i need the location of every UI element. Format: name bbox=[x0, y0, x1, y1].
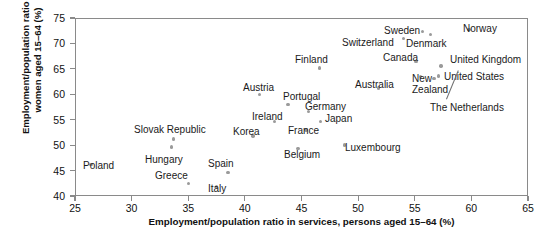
data-point bbox=[318, 66, 321, 69]
data-point-label: The Netherlands bbox=[430, 103, 504, 114]
x-tick-label: 45 bbox=[287, 203, 317, 213]
scatter-chart-figure: Employment/population ratio for women ag… bbox=[0, 0, 554, 242]
data-point-label: Luxembourg bbox=[345, 143, 401, 154]
data-point-label: Denmark bbox=[406, 39, 447, 50]
y-tick-label: 75 bbox=[37, 13, 65, 23]
data-point-label: Switzerland bbox=[342, 38, 394, 49]
y-tick-mark bbox=[70, 145, 75, 146]
data-point bbox=[170, 145, 173, 148]
y-tick-mark bbox=[70, 94, 75, 95]
data-point-label: Ireland bbox=[252, 112, 283, 123]
x-tick-mark bbox=[244, 196, 245, 201]
data-point bbox=[187, 182, 190, 185]
x-tick-label: 30 bbox=[117, 203, 147, 213]
data-point-label: Korea bbox=[233, 127, 260, 138]
y-tick-mark bbox=[70, 17, 75, 18]
data-point-label: Spain bbox=[208, 159, 234, 170]
data-point-label: Canada bbox=[383, 53, 418, 64]
data-point-label: United Kingdom bbox=[450, 55, 521, 66]
x-tick-label: 40 bbox=[230, 203, 260, 213]
data-point-label: New Zealand bbox=[412, 74, 448, 95]
data-point-label: Germany bbox=[305, 102, 346, 113]
x-tick-label: 65 bbox=[513, 203, 543, 213]
data-point-label: Australia bbox=[355, 80, 394, 91]
data-point bbox=[286, 103, 289, 106]
x-tick-mark bbox=[301, 196, 302, 201]
y-tick-label: 60 bbox=[37, 89, 65, 99]
x-tick-mark bbox=[358, 196, 359, 201]
x-tick-mark bbox=[471, 196, 472, 201]
data-point bbox=[432, 77, 435, 80]
data-point-label: France bbox=[288, 126, 319, 137]
data-point-label: Norway bbox=[463, 24, 497, 35]
x-tick-mark bbox=[527, 196, 528, 201]
data-point bbox=[226, 171, 229, 174]
data-point-label: Belgium bbox=[284, 150, 320, 161]
data-point-label: Japan bbox=[325, 114, 352, 125]
y-tick-label: 50 bbox=[37, 140, 65, 150]
y-tick-mark bbox=[70, 170, 75, 171]
data-point bbox=[172, 137, 175, 140]
y-tick-label: 45 bbox=[37, 166, 65, 176]
x-tick-label: 55 bbox=[400, 203, 430, 213]
x-tick-label: 25 bbox=[60, 203, 90, 213]
y-tick-label: 70 bbox=[37, 38, 65, 48]
x-tick-mark bbox=[74, 196, 75, 201]
x-tick-mark bbox=[414, 196, 415, 201]
data-point-label: Poland bbox=[83, 161, 114, 172]
x-tick-mark bbox=[188, 196, 189, 201]
data-point-label: Slovak Republic bbox=[134, 125, 206, 136]
data-point-label: Hungary bbox=[145, 155, 183, 166]
data-point-label: Sweden bbox=[384, 26, 420, 37]
x-tick-label: 35 bbox=[173, 203, 203, 213]
data-point-label: Austria bbox=[243, 83, 274, 94]
data-point bbox=[439, 64, 442, 67]
x-tick-label: 60 bbox=[456, 203, 486, 213]
y-tick-mark bbox=[70, 68, 75, 69]
y-tick-label: 55 bbox=[37, 115, 65, 125]
y-tick-label: 65 bbox=[37, 64, 65, 74]
data-point-label: Finland bbox=[295, 55, 328, 66]
x-axis-title: Employment/population ratio in services,… bbox=[75, 216, 528, 227]
data-point-label: Greece bbox=[155, 171, 188, 182]
y-tick-label: 40 bbox=[37, 191, 65, 201]
x-tick-label: 50 bbox=[343, 203, 373, 213]
y-tick-mark bbox=[70, 43, 75, 44]
x-tick-mark bbox=[131, 196, 132, 201]
y-tick-mark bbox=[70, 119, 75, 120]
data-point-label: Italy bbox=[208, 184, 226, 195]
